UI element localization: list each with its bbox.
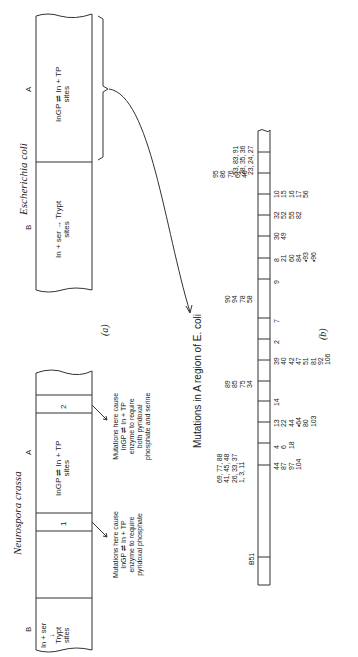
ecoli-title: Escherichia coli <box>18 143 29 215</box>
panel-a-label: (a) <box>100 324 110 336</box>
ecoli-b-line2: sites <box>63 201 71 258</box>
ecoli-region-a-label: InGP ⇌ In + TP sites <box>55 67 71 122</box>
mutation-id: 6 <box>280 442 287 449</box>
mutation-id: 94 <box>231 296 238 303</box>
note1-line: enzyme to require <box>128 511 136 578</box>
mutation-id: B51 <box>248 553 255 565</box>
mutation-group-right-12: 44 87 97 104 <box>273 459 302 470</box>
mutation-group-right-6: 7 <box>273 319 280 323</box>
mutation-id: 34 <box>246 381 253 388</box>
ecoli-region-b-label: In + ser → Trypt sites <box>55 201 71 258</box>
mutation-id: 90 <box>224 296 231 303</box>
mutation-id: 41, 45, 48 <box>223 454 230 483</box>
mutation-id: 40 <box>280 354 287 365</box>
mutation-group-right-4: 8 21 60 84 •93 •96 <box>273 252 317 262</box>
mutation-id: 17 <box>295 191 302 198</box>
neurospora-box <box>36 370 92 652</box>
note2-line: InGP ⇌ In + TP <box>120 393 128 460</box>
mutation-group-right-10: 13 22 44 •64 80 103 <box>273 416 317 427</box>
mutation-id: 16 <box>288 191 295 198</box>
mutation-id: •64 <box>295 416 302 427</box>
neurospora-title: Neurospora crassa <box>12 471 23 555</box>
mutation-group-right-7: 2 <box>273 340 280 344</box>
mutation-id: 89 <box>224 381 231 388</box>
mutation-id: 42 <box>288 354 295 365</box>
mutation-id: •93 <box>302 252 309 262</box>
mutation-group-left-5: 69, 77, 88 41, 45, 48 26, 33, 37 1, 3, 1… <box>216 454 245 483</box>
mutation-id: 7 <box>273 319 280 323</box>
mutation-id: 95 <box>212 171 219 178</box>
mutation-map <box>258 130 270 586</box>
mutation-group-left-2: 53, 83, 91 28, 35, 36 23, 24, 27 <box>232 146 254 175</box>
mutation-id: 97 <box>288 459 295 470</box>
mutation-id: 26, 33, 37 <box>231 454 238 483</box>
mutation-id: 56 <box>302 191 309 198</box>
mutation-id: 8 <box>273 252 280 262</box>
note-site-2: Mutations here cause InGP ⇌ In + TP enzy… <box>112 393 152 460</box>
mutation-id: 47 <box>295 354 302 365</box>
mutation-id: 9 <box>273 280 280 284</box>
panel-b-label: (b) <box>318 328 328 340</box>
neurospora-region-a-letter: A <box>25 450 33 455</box>
mutation-group-right-8: 39 40 42 47 51 81 92 106 <box>273 354 332 365</box>
mutation-id: 103 <box>310 416 317 427</box>
mutation-id: 1, 3, 11 <box>238 454 245 483</box>
mutation-id: 87 <box>280 459 287 470</box>
brace <box>98 16 108 160</box>
neurospora-region-b-letter: B <box>25 627 33 632</box>
mutation-id: 106 <box>324 354 331 365</box>
mutation-id: 69, 77, 88 <box>216 454 223 483</box>
mutation-id: 21 <box>280 252 287 262</box>
note2-line: phosphate and serine <box>144 393 152 460</box>
mutation-id: 23, 24, 27 <box>247 146 254 175</box>
mutation-id: 39 <box>273 354 280 365</box>
mutation-id: 49 <box>280 233 287 240</box>
mutation-id: 104 <box>295 459 302 470</box>
note1-line: InGP ⇌ In + TP <box>120 511 128 578</box>
note1-line: pyridoxal phosphate <box>136 511 144 578</box>
mutation-id: 51 <box>302 354 309 365</box>
mutation-group-right-3: 30 49 <box>273 233 288 240</box>
mutation-id: 81 <box>310 354 317 365</box>
note1-line: Mutations here cause <box>112 511 120 578</box>
mutation-id: 10 <box>273 191 280 198</box>
mutation-id: 53, 83, 91 <box>232 146 239 175</box>
note-site-1: Mutations here cause InGP ⇌ In + TP enzy… <box>112 511 144 578</box>
mutation-id: 28, 35, 36 <box>239 146 246 175</box>
mutation-group-left-6: B51 <box>248 553 255 565</box>
mutation-group-right-5: 9 <box>273 280 280 284</box>
mutation-id: 15 <box>280 191 287 198</box>
ecoli-region-b-letter: B <box>25 225 33 230</box>
mutation-id: 55 <box>288 212 295 219</box>
mutation-id: 92 <box>317 354 324 365</box>
mutation-id: 75 <box>239 381 246 388</box>
site-2-label: 2 <box>60 405 68 409</box>
mutation-group-right-11: 4 6 18 <box>273 442 295 449</box>
ecoli-region-a-letter: A <box>25 87 33 92</box>
curve-arrow <box>109 89 190 312</box>
mutation-id: 78 <box>239 296 246 303</box>
note2-line: Mutations here cause <box>112 393 120 460</box>
panel-b-title: Mutations in A region of E. coli <box>193 314 203 448</box>
mutation-group-right-2: 32 52 55 82 <box>273 212 302 219</box>
mutation-id: 32 <box>273 212 280 219</box>
mutation-id: 85 <box>231 381 238 388</box>
mutation-group-right-1: 10 15 16 17 56 <box>273 191 310 198</box>
mutation-group-right-9: 14 <box>273 399 280 406</box>
mutation-id: 4 <box>273 442 280 449</box>
mutation-id: 44 <box>288 416 295 427</box>
mutation-id: 84 <box>295 252 302 262</box>
neurospora-b-line3: sites <box>63 623 71 648</box>
mutation-id: 52 <box>280 212 287 219</box>
mutation-id: 18 <box>288 442 295 449</box>
neurospora-region-b-label: In + ser ↓ Trypt sites <box>40 623 70 648</box>
ecoli-a-line2: sites <box>63 67 71 122</box>
mutation-id: 30 <box>273 233 280 240</box>
neurospora-a-line2: sites <box>63 441 71 496</box>
mutation-id: 80 <box>302 416 309 427</box>
note2-line: both pyridoxal <box>136 393 144 460</box>
neurospora-region-a-label: InGP ⇌ In + TP sites <box>55 441 71 496</box>
mutation-id: 82 <box>295 212 302 219</box>
site-1-label: 1 <box>60 522 68 526</box>
note2-line: enzyme to require <box>128 393 136 460</box>
